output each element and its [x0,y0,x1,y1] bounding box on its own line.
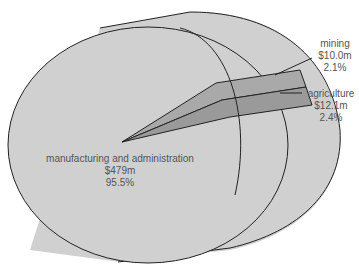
label-agriculture: agriculture $12.1m 2.4% [303,88,359,124]
pie-front-face [8,27,288,263]
label-manufacturing: manufacturing and administration $479m 9… [20,153,220,189]
label-mining-percent: 2.1% [310,62,359,74]
label-agriculture-name: agriculture [303,88,359,100]
label-mining-value: $10.0m [310,50,359,62]
label-manufacturing-value: $479m [20,165,220,177]
label-mining-name: mining [310,38,359,50]
label-mining: mining $10.0m 2.1% [310,38,359,74]
label-agriculture-value: $12.1m [303,100,359,112]
pie-chart-cylinder [0,0,359,268]
label-agriculture-percent: 2.4% [303,112,359,124]
label-manufacturing-percent: 95.5% [20,177,220,189]
label-manufacturing-name: manufacturing and administration [20,153,220,165]
